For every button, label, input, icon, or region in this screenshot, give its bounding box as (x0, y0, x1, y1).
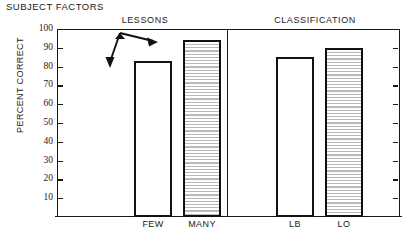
y-tick-label-30: 30 (19, 155, 53, 165)
y-tick-40 (393, 142, 398, 143)
y-tick-100 (393, 29, 398, 30)
bar-lb (276, 57, 314, 217)
bar-many (183, 40, 221, 217)
y-tick-30 (58, 161, 63, 162)
y-tick-90 (393, 48, 398, 49)
panel-header-lessons: LESSONS (90, 15, 200, 25)
x-tick-label-lo: LO (314, 219, 374, 229)
plot-area: FEWMANYLBLO (57, 29, 400, 217)
y-tick-80 (58, 67, 63, 68)
y-tick-label-20: 20 (19, 173, 53, 183)
y-tick-10 (58, 198, 63, 199)
y-tick-30 (393, 161, 398, 162)
y-tick-label-10: 10 (19, 192, 53, 202)
y-tick-label-40: 40 (19, 136, 53, 146)
y-tick-60 (58, 104, 63, 105)
bar-few (134, 61, 172, 217)
axis-top (57, 29, 400, 30)
y-tick-label-70: 70 (19, 79, 53, 89)
y-tick-10 (393, 198, 398, 199)
y-tick-label-80: 80 (19, 61, 53, 71)
y-tick-70 (58, 85, 63, 86)
y-tick-90 (58, 48, 63, 49)
bar-lo (325, 48, 363, 217)
y-tick-80 (393, 67, 398, 68)
y-tick-50 (393, 123, 398, 124)
y-tick-20 (393, 179, 398, 180)
y-tick-label-90: 90 (19, 42, 53, 52)
figure-root: SUBJECT FACTORS PERCENT CORRECT LESSONS … (0, 0, 418, 241)
y-tick-70 (393, 85, 398, 86)
y-tick-label-60: 60 (19, 98, 53, 108)
y-axis-right (399, 29, 400, 217)
panel-divider (227, 29, 228, 217)
y-tick-label-50: 50 (19, 117, 53, 127)
y-tick-100 (58, 29, 63, 30)
y-tick-50 (58, 123, 63, 124)
y-tick-20 (58, 179, 63, 180)
y-tick-40 (58, 142, 63, 143)
panel-header-classification: CLASSIFICATION (245, 15, 385, 25)
y-tick-label-100: 100 (19, 23, 53, 33)
figure-title: SUBJECT FACTORS (6, 1, 104, 12)
x-tick-label-many: MANY (172, 219, 232, 229)
y-tick-60 (393, 104, 398, 105)
y-axis-tick-labels: 100908070605040302010 (15, 29, 53, 217)
